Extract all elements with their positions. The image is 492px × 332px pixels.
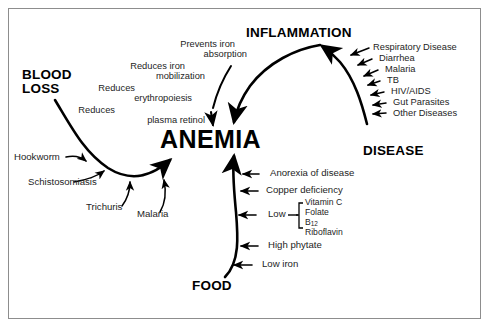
disease-cause-3: TB [387,76,399,86]
inflammation-effect-connector [213,66,231,108]
blood-loss-cause-0: Hookworm [14,152,60,162]
blood-loss-cause-1: Schistosomiasis [28,177,97,187]
inflammation-effect-0b: absorption [60,50,247,60]
anemia-causal-diagram: BLOOD LOSS INFLAMMATION DISEASE FOOD ANE… [0,0,492,332]
node-food: FOOD [192,279,232,293]
node-disease: DISEASE [363,144,424,158]
inflammation-effect-3-line2: plasma retinol [10,116,205,126]
inflammation-effect-1-line2: mobilization [40,72,205,82]
inflammation-effect-2: Reduces [20,84,135,94]
inflammation-effect-2b: erythropoiesis [20,94,192,104]
inflammation-effect-1b: mobilization [40,72,205,82]
figure-caption-fragment [10,325,480,332]
disease-cause-6: Other Diseases [393,109,457,119]
disease-cause-1: Diarrhea [379,54,415,64]
food-arc [225,156,237,277]
node-inflammation: INFLAMMATION [246,26,352,40]
blood-loss-cause-2: Trichuris [86,202,122,212]
disease-cause-2: Malaria [385,65,415,75]
low-nutrient-3: Riboflavin [305,228,343,238]
inflammation-effect-2-line1: Reduces [20,84,135,94]
inflammation-effect-3b: plasma retinol [10,116,205,126]
food-factor-3: High phytate [268,240,322,250]
low-nutrient-2-subscript: 12 [311,220,318,227]
food-factor-1: Copper deficiency [266,185,343,195]
food-factor-2: Low [268,209,286,219]
disease-cause-0: Respiratory Disease [373,43,457,53]
low-nutrients-bracket [288,203,303,228]
disease-cause-5: Gut Parasites [393,98,449,108]
blood-loss-cause-3: Malaria [137,209,168,219]
inflammation-effect-3-line1: Reduces [10,106,115,116]
plasma-retinol-arrow [211,112,213,125]
food-factor-4: Low iron [262,259,298,269]
inflammation-effect-2-line2: erythropoiesis [20,94,192,104]
inflammation-effect-3: Reduces [10,106,115,116]
inflammation-effect-0-line2: absorption [60,50,247,60]
node-anemia: ANEMIA [160,126,261,152]
food-factor-0: Anorexia of disease [270,168,354,178]
disease-arc [322,46,367,124]
disease-cause-4: HIV/AIDS [391,87,431,97]
